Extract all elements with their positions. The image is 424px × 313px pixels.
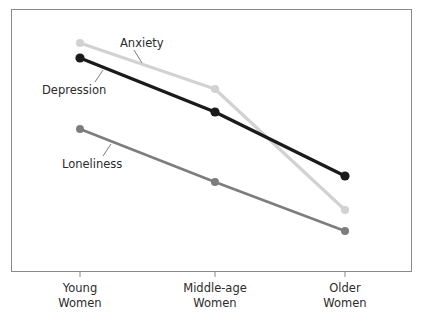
plot-frame [12, 10, 412, 272]
axis-label-middle-age-women-line2: Women [193, 296, 236, 310]
axis-label-older-women-line2: Women [323, 296, 366, 310]
data-point-depression-middle-age-women [210, 107, 219, 116]
series-label-loneliness: Loneliness [62, 157, 122, 171]
series-label-depression: Depression [42, 83, 106, 97]
data-point-loneliness-young-women [76, 125, 84, 133]
axis-label-young-women-line1: Young [62, 281, 97, 295]
series-label-anxiety: Anxiety [120, 36, 164, 50]
axis-label-young-women-line2: Women [58, 296, 101, 310]
data-point-anxiety-young-women [76, 39, 84, 47]
axis-label-older-women-line1: Older [329, 281, 361, 295]
line-chart: Anxiety Depression Loneliness Young Wome… [0, 0, 424, 313]
leader-line-depression [95, 70, 103, 82]
data-point-depression-young-women [75, 53, 84, 62]
data-point-anxiety-middle-age-women [211, 85, 219, 93]
data-point-anxiety-older-women [341, 206, 349, 214]
axis-label-middle-age-women-line1: Middle-age [183, 281, 247, 295]
data-point-loneliness-middle-age-women [211, 178, 219, 186]
chart-page: Anxiety Depression Loneliness Young Wome… [0, 0, 424, 313]
leader-line-loneliness [103, 144, 111, 156]
data-point-loneliness-older-women [341, 227, 349, 235]
data-point-depression-older-women [340, 171, 349, 180]
